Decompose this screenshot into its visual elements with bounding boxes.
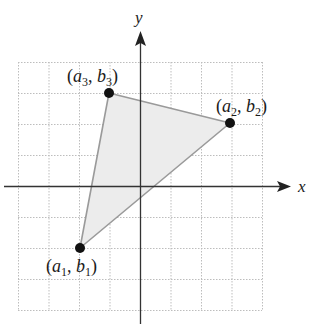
point-a2-b2 [225, 118, 235, 128]
label-a1-b1: (a1, b1) [46, 256, 97, 279]
point-a3-b3 [104, 88, 114, 98]
coordinate-plane: x y (a1, b1) (a2, b2) (a3, b3) [0, 0, 313, 324]
point-a1-b1 [75, 243, 85, 253]
y-axis-label: y [133, 8, 143, 27]
triangle [80, 93, 230, 248]
x-axis-label: x [297, 177, 306, 196]
label-a2-b2: (a2, b2) [216, 96, 267, 119]
